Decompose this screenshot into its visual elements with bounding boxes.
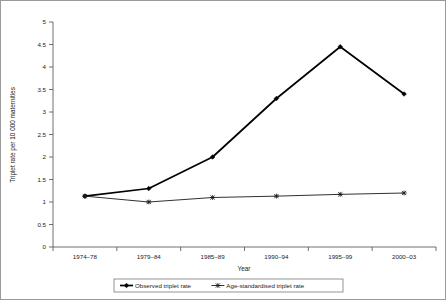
x-tick-label: 1974–78 xyxy=(73,253,98,260)
x-tick-label: 2000–03 xyxy=(392,253,417,260)
y-tick-label: 0 xyxy=(43,243,47,250)
y-tick-label: 3.5 xyxy=(37,86,46,93)
data-point-marker xyxy=(82,194,87,199)
y-tick-label: 5 xyxy=(43,18,47,25)
data-point-marker xyxy=(146,200,151,205)
legend-label: Age-standardised triplet rate xyxy=(226,282,304,289)
y-axis-title: Triplet rate per 10 000 maternities xyxy=(9,87,17,183)
x-tick-label: 1995–99 xyxy=(328,253,353,260)
x-axis-ticks: 1974–781979–841985–891990–941995–992000–… xyxy=(53,247,436,260)
series-1 xyxy=(83,44,407,198)
y-tick-label: 2 xyxy=(43,153,47,160)
data-point-marker xyxy=(210,195,215,200)
line-chart: Triplet rate per 10 000 maternities 00.5… xyxy=(1,1,446,300)
y-axis-ticks: 00.511.522.533.544.55 xyxy=(37,18,53,250)
y-tick-label: 2.5 xyxy=(37,131,46,138)
y-tick-label: 1.5 xyxy=(37,176,46,183)
x-tick-label: 1985–89 xyxy=(201,253,226,260)
series-line xyxy=(85,47,404,196)
y-tick-label: 1 xyxy=(43,198,47,205)
series-2 xyxy=(82,191,406,205)
x-axis-title: Year xyxy=(238,265,252,272)
y-tick-label: 3 xyxy=(43,108,47,115)
chart-legend: Observed triplet rateAge-standardised tr… xyxy=(114,279,343,292)
data-point-marker xyxy=(215,283,220,288)
data-point-marker xyxy=(401,191,406,196)
x-tick-label: 1990–94 xyxy=(264,253,289,260)
y-tick-label: 4 xyxy=(43,63,47,70)
x-tick-label: 1979–84 xyxy=(137,253,162,260)
data-point-marker xyxy=(274,194,279,199)
legend-label: Observed triplet rate xyxy=(135,282,192,289)
series-line xyxy=(85,193,404,202)
series-layer xyxy=(82,44,406,204)
y-tick-label: 4.5 xyxy=(37,41,46,48)
chart-container: Triplet rate per 10 000 maternities 00.5… xyxy=(0,0,446,300)
y-tick-label: 0.5 xyxy=(37,221,46,228)
data-point-marker xyxy=(338,192,343,197)
